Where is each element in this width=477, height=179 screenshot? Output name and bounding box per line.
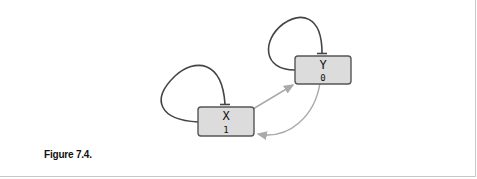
node-y-label: Y [319,58,327,72]
node-x-value: 1 [223,125,228,135]
edge-x-to-y [253,85,293,109]
node-y: Y 0 [295,56,351,84]
node-x-label: X [222,109,230,123]
node-x: X 1 [198,107,254,136]
node-y-value: 0 [320,73,325,83]
edge-y-to-x [258,83,320,135]
figure-caption: Figure 7.4. [44,149,92,160]
